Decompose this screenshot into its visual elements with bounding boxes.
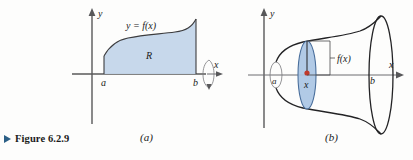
panel-a-y-axis: [89, 8, 96, 124]
figure-caption-label: Figure 6.2.9: [15, 133, 69, 144]
panel-b-subcaption: (b): [325, 131, 338, 143]
panel-a-x-axis-label: x: [213, 59, 219, 70]
panel-a-subcaption: (a): [140, 131, 153, 143]
panel-a-upper-limit-label: b: [193, 77, 198, 88]
figure-caption: Figure 6.2.9: [4, 133, 69, 144]
triangle-right-marker-icon: [4, 135, 11, 143]
panel-a-lower-limit-label: a: [101, 77, 106, 88]
panel-a-rotation-arrow-icon: [203, 60, 223, 90]
panel-a-curve-label: y = f(x): [125, 20, 157, 32]
panel-a-region-label: R: [145, 50, 152, 61]
panel-a-y-axis-label: y: [97, 8, 103, 19]
figure-page: y y = f(x) R a b x: [0, 0, 413, 160]
